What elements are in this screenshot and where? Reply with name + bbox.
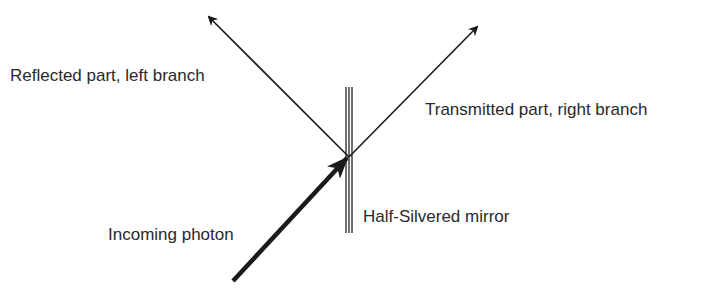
reflected-label: Reflected part, left branch: [10, 67, 205, 84]
transmitted-beam-arrow: [349, 27, 477, 157]
incoming-photon-label: Incoming photon: [108, 226, 234, 243]
reflected-beam-arrow: [209, 17, 349, 157]
incoming-photon-arrow: [233, 158, 347, 281]
mirror-label: Half-Silvered mirror: [363, 208, 509, 225]
beam-splitter-diagram: [0, 0, 704, 300]
transmitted-label: Transmitted part, right branch: [425, 101, 647, 118]
